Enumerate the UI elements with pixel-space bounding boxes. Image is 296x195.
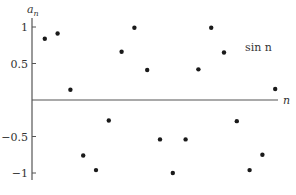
data-point — [81, 153, 85, 157]
data-point — [55, 31, 59, 35]
y-axis-label: an — [27, 3, 39, 18]
y-tick-label: −0.5 — [1, 131, 28, 144]
data-point — [183, 137, 187, 141]
data-point — [196, 67, 200, 71]
series-label: sin n — [245, 41, 272, 54]
y-tick-label: 0.5 — [11, 58, 29, 71]
data-point — [68, 88, 72, 92]
data-point — [209, 26, 213, 30]
y-ticks: 10.5−0.5−1 — [1, 21, 36, 180]
data-point — [119, 50, 123, 54]
data-point — [158, 137, 162, 141]
data-point — [132, 26, 136, 30]
data-point — [235, 119, 239, 123]
axes — [32, 18, 278, 180]
data-point — [273, 87, 277, 91]
data-point — [222, 50, 226, 54]
data-point — [260, 153, 264, 157]
data-point — [107, 118, 111, 122]
data-point — [94, 168, 98, 172]
data-point — [247, 168, 251, 172]
data-point — [145, 68, 149, 72]
data-point — [171, 171, 175, 175]
y-tick-label: −1 — [12, 167, 28, 180]
sequence-scatter-chart: 10.5−0.5−1 an n sin n — [0, 0, 296, 195]
x-axis-label: n — [283, 94, 290, 107]
y-tick-label: 1 — [21, 21, 28, 34]
data-point — [43, 36, 47, 40]
